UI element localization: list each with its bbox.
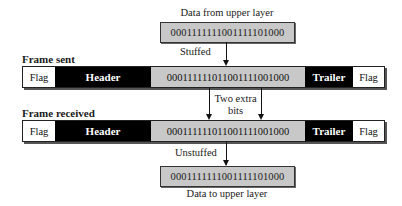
frame-sent-flag-right: Flag xyxy=(353,67,384,87)
frame-received-trailer: Trailer xyxy=(305,121,353,141)
frame-sent: Flag Header 000111111011001111001000 Tra… xyxy=(22,66,385,88)
frame-sent-title: Frame sent xyxy=(22,53,75,65)
stuffed-arrow-line xyxy=(226,42,227,61)
frame-received-flag-left: Flag xyxy=(23,121,55,141)
frame-sent-trailer: Trailer xyxy=(305,67,353,87)
frame-received-title: Frame received xyxy=(22,107,95,119)
extra-bit-arrow-2-line xyxy=(261,88,262,115)
two-extra-bits-annotation: Two extra bits xyxy=(210,93,261,117)
frame-received-flag-right: Flag xyxy=(353,121,384,141)
data-to-upper-layer-label: Data to upper layer xyxy=(160,188,294,199)
frame-received: Flag Header 000111111011001111001000 Tra… xyxy=(22,120,385,142)
frame-sent-flag-left: Flag xyxy=(23,67,55,87)
lower-data-bits-box: 0001111111001111101000 xyxy=(160,166,295,187)
frame-received-header: Header xyxy=(55,121,151,141)
unstuffed-label: Unstuffed xyxy=(175,147,217,158)
upper-data-bits-box: 0001111111001111101000 xyxy=(160,22,295,43)
annotation-line-2: bits xyxy=(210,105,261,117)
stuffed-label: Stuffed xyxy=(180,46,211,57)
frame-sent-header: Header xyxy=(55,67,151,87)
frame-received-payload: 000111111011001111001000 xyxy=(151,121,305,141)
data-from-upper-layer-label: Data from upper layer xyxy=(160,7,294,18)
frame-sent-payload: 000111111011001111001000 xyxy=(151,67,305,87)
annotation-line-1: Two extra xyxy=(210,93,261,105)
